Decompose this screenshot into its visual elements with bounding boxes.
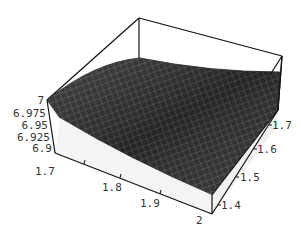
x-tick-label: 1.8: [102, 181, 122, 194]
x-tick-label: 2: [196, 214, 203, 227]
surface: [47, 58, 280, 214]
y-tick-label: 1.7: [272, 119, 292, 132]
y-tick-label: 1.6: [257, 143, 277, 156]
y-tick-label: 1.4: [221, 199, 241, 212]
z-tick-label: 6.9: [32, 142, 52, 155]
x-tick-label: 1.7: [35, 165, 55, 178]
x-tick-label: 1.9: [140, 197, 160, 210]
z-tick-label: 7: [37, 94, 44, 107]
z-axis: 7 6.975 6.95 6.925 6.9: [13, 94, 52, 155]
surface-plot: 7 6.975 6.95 6.925 6.9 1.7 1.8 1.9 2 1.4…: [0, 0, 301, 237]
y-tick-label: 1.5: [240, 171, 260, 184]
